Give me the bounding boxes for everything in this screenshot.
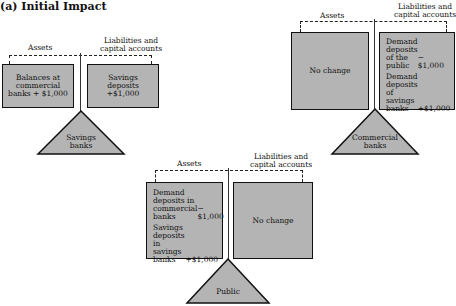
- beam-hanger-right: [302, 170, 303, 182]
- balance-post: [80, 53, 81, 111]
- balance-post: [374, 19, 375, 109]
- liabilities-label: Liabilities and capital accounts: [250, 153, 312, 169]
- ledger-entry: Demand deposits of savings banks +$1,000: [386, 73, 450, 113]
- beam-hanger-right: [151, 55, 152, 64]
- balance-beam: [155, 170, 303, 171]
- liabilities-box: Demand deposits of the public −$1,000 De…: [379, 32, 455, 110]
- liabilities-box: No change: [233, 182, 313, 259]
- assets-label: Assets: [177, 160, 201, 168]
- assets-box: No change: [291, 32, 369, 110]
- fulcrum-label: Public: [203, 288, 253, 296]
- fulcrum-triangle: [185, 258, 271, 304]
- liabilities-label: Liabilities and capital accounts: [100, 37, 162, 53]
- liabilities-box: Savings deposits +$1,000: [87, 64, 159, 108]
- figure-title: (a) Initial Impact: [0, 0, 106, 13]
- balance-post: [228, 168, 229, 259]
- beam-hanger-right: [446, 21, 447, 32]
- ledger-entry: Demand deposits in commercial banks −$1,…: [153, 189, 218, 221]
- beam-hanger-left: [9, 55, 10, 64]
- liabilities-label: Liabilities and capital accounts: [394, 3, 456, 19]
- assets-box: Demand deposits in commercial banks −$1,…: [146, 182, 223, 259]
- assets-label: Assets: [320, 12, 344, 20]
- assets-label: Assets: [28, 44, 52, 52]
- beam-hanger-left: [300, 21, 301, 32]
- ledger-entry: Demand deposits of the public −$1,000: [386, 38, 450, 70]
- beam-hanger-left: [155, 170, 156, 182]
- assets-box: Balances at commercial banks + $1,000: [2, 64, 74, 108]
- fulcrum-label: Savings banks: [56, 134, 106, 150]
- fulcrum-label: Commercial banks: [350, 134, 400, 150]
